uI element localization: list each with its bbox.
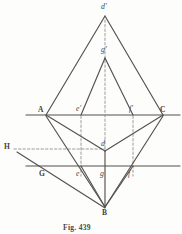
edge-gprime-eprime (81, 58, 105, 115)
edge-A-B (46, 116, 105, 207)
figure-caption: Fig. 439 (63, 223, 91, 232)
point-label-H: H (4, 143, 10, 151)
point-label-f-prime: f' (129, 105, 133, 113)
edge-C-d (105, 115, 163, 151)
point-label-G: G (39, 170, 45, 178)
edge-H-B (17, 152, 105, 208)
point-label-e: e (76, 170, 79, 178)
edge-dprime-C (105, 16, 163, 115)
point-label-e-prime: e' (76, 105, 81, 113)
point-label-C: C (160, 106, 165, 114)
point-label-g: g (100, 170, 104, 178)
edge-A-d (46, 115, 105, 151)
dashed-edges-group (14, 20, 133, 176)
figure-vector-canvas (0, 0, 182, 234)
point-label-B: B (102, 209, 107, 217)
point-label-A: A (38, 106, 43, 114)
point-label-f: f (128, 170, 130, 178)
point-label-d-prime: d' (101, 3, 107, 11)
edge-dprime-A (46, 16, 105, 115)
point-label-d: d (101, 140, 105, 148)
figure-439-drawing: d'g'Ae'f'CdHGegfB Fig. 439 (0, 0, 182, 234)
point-label-g-prime: g' (101, 46, 107, 54)
